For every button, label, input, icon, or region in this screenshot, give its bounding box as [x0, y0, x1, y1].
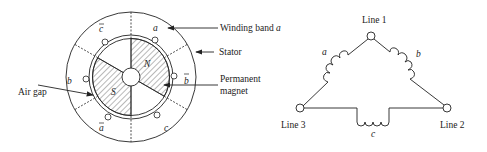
- coil-b-label: b: [416, 49, 421, 59]
- permanent-magnet-label-2: magnet: [220, 86, 248, 96]
- line2-label: Line 2: [440, 120, 465, 130]
- terminal-line3: [296, 104, 304, 112]
- coil-a: [303, 39, 368, 106]
- slot-label-b: b: [67, 76, 72, 86]
- terminal-line2: [443, 104, 451, 112]
- coil-a-label: a: [322, 47, 327, 57]
- slot-label-a: a: [153, 23, 158, 33]
- slot-label-a-bar: a: [99, 123, 104, 133]
- air-gap-label: Air gap: [18, 87, 47, 97]
- permanent-magnet-label-1: Permanent: [220, 74, 261, 84]
- coil-c: [304, 108, 443, 126]
- line1-label: Line 1: [362, 15, 387, 25]
- line3-label: Line 3: [281, 120, 306, 130]
- motor-cross-section: N S a c b b a c Winding band a Stator Pe…: [18, 12, 281, 142]
- winding-band-label: Winding band a: [220, 23, 281, 33]
- rotor-south-label: S: [111, 87, 116, 97]
- coil-b: [374, 39, 444, 105]
- coil-c-label: c: [371, 129, 376, 139]
- delta-connection: [296, 32, 451, 126]
- slot-label-c: c: [164, 123, 169, 133]
- diagram-canvas: N S a c b b a c Winding band a Stator Pe…: [0, 0, 487, 152]
- terminal-line1: [367, 32, 375, 40]
- slot-label-b-bar: b: [184, 76, 189, 86]
- rotor-shaft: [122, 68, 140, 86]
- slot-label-c-bar: c: [99, 24, 104, 34]
- stator-label: Stator: [219, 47, 243, 57]
- rotor-north-label: N: [143, 59, 151, 69]
